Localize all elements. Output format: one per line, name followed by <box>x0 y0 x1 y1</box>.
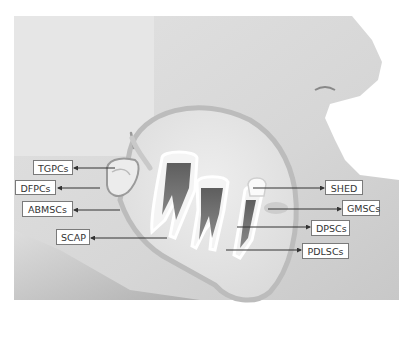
label-dpscs: DPSCs <box>311 220 350 236</box>
label-abmscs: ABMSCs <box>22 201 73 217</box>
label-shed: SHED <box>325 180 363 195</box>
label-pdlscs: PDLSCs <box>302 243 349 259</box>
label-tgpcs: TGPCs <box>33 160 73 175</box>
deciduous-tooth <box>248 178 266 196</box>
jaw-diagram: TGPCs DFPCs ABMSCs SCAP SHED GMSCs DPSCs… <box>0 0 399 339</box>
gingiva <box>264 202 288 214</box>
label-dfpcs: DFPCs <box>15 180 56 195</box>
label-gmscs: GMSCs <box>342 200 380 216</box>
label-scap: SCAP <box>56 229 90 245</box>
